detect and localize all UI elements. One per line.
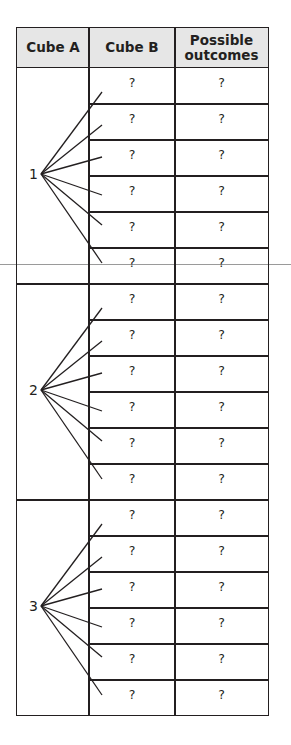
outcome-cell: ? xyxy=(175,280,268,316)
cube-b-cell: ? xyxy=(89,496,175,532)
cube-b-cell: ? xyxy=(89,244,175,280)
cube-a-value: 1 xyxy=(29,166,38,182)
outcome-cell: ? xyxy=(175,604,268,640)
outcome-cell: ? xyxy=(175,532,268,568)
cube-b-cell: ? xyxy=(89,136,175,172)
outcome-cell: ? xyxy=(175,568,268,604)
cube-b-cell: ? xyxy=(89,532,175,568)
cube-b-cell: ? xyxy=(89,604,175,640)
outcome-cell: ? xyxy=(175,460,268,496)
cube-b-cell: ? xyxy=(89,424,175,460)
cube-b-cell: ? xyxy=(89,172,175,208)
outcome-cell: ? xyxy=(175,388,268,424)
outcome-cell: ? xyxy=(175,208,268,244)
tree-diagram-table: Cube A Cube B Possible outcomes ????????… xyxy=(16,27,269,716)
cube-b-cell: ? xyxy=(89,316,175,352)
outcome-cell: ? xyxy=(175,136,268,172)
cube-b-cell: ? xyxy=(89,352,175,388)
cube-b-cell: ? xyxy=(89,64,175,100)
cube-b-cell: ? xyxy=(89,676,175,712)
outcome-cell: ? xyxy=(175,424,268,460)
outcome-cell: ? xyxy=(175,640,268,676)
column-header-cube-b: Cube B xyxy=(89,28,175,68)
outcome-cell: ? xyxy=(175,496,268,532)
outcome-cell: ? xyxy=(175,244,268,280)
outcome-cell: ? xyxy=(175,352,268,388)
outcome-cell: ? xyxy=(175,100,268,136)
column-header-cube-a: Cube A xyxy=(17,28,89,68)
column-header-possible-outcomes: Possible outcomes xyxy=(175,28,268,68)
cube-b-cell: ? xyxy=(89,460,175,496)
outcome-cell: ? xyxy=(175,676,268,712)
cube-b-cell: ? xyxy=(89,388,175,424)
outcome-cell: ? xyxy=(175,316,268,352)
cube-b-cell: ? xyxy=(89,100,175,136)
outcome-cell: ? xyxy=(175,172,268,208)
cube-b-cell: ? xyxy=(89,208,175,244)
cube-a-value: 3 xyxy=(29,598,38,614)
outcome-cell: ? xyxy=(175,64,268,100)
cube-a-value: 2 xyxy=(29,382,38,398)
cube-b-cell: ? xyxy=(89,640,175,676)
cube-b-cell: ? xyxy=(89,280,175,316)
cube-b-cell: ? xyxy=(89,568,175,604)
